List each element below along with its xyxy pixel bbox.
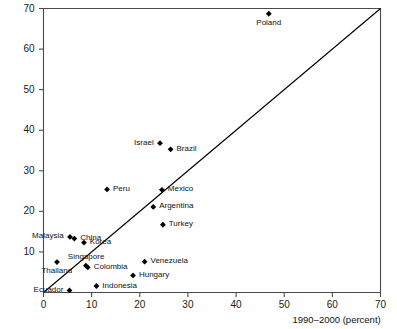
x-axis-tick-label: 10	[72, 300, 112, 310]
x-axis-tick-label: 20	[120, 300, 160, 310]
data-point-marker	[160, 222, 166, 228]
data-point-label: Brazil	[176, 145, 196, 153]
data-point-marker	[104, 187, 110, 193]
y-axis-tick-label: 50	[0, 85, 35, 95]
data-point-label: Singapore	[68, 253, 104, 261]
data-point-marker	[157, 140, 163, 146]
data-point-marker	[266, 11, 272, 17]
y-axis-tick-label: 30	[0, 166, 35, 176]
x-axis-tick-label: 60	[312, 300, 352, 310]
data-point-label: Hungary	[139, 271, 169, 279]
data-point-label: Poland	[256, 19, 281, 27]
y-axis-tick-label: 70	[0, 4, 35, 14]
data-point-label: Indonesia	[102, 282, 137, 290]
data-point-marker	[130, 273, 136, 279]
data-point-label: Venezuela	[151, 257, 188, 265]
data-point-marker	[142, 259, 148, 265]
data-point-marker	[168, 146, 174, 152]
45-degree-line	[44, 9, 381, 293]
x-axis-tick-label: 70	[361, 300, 397, 310]
data-point-label: Peru	[113, 185, 130, 193]
data-point-label: Malaysia	[32, 232, 64, 240]
x-axis-title: 1990–2000 (percent)	[293, 315, 381, 325]
y-axis-tick-label: 10	[0, 247, 35, 257]
x-axis-tick-label: 40	[216, 300, 256, 310]
y-axis-tick-label: 20	[0, 206, 35, 216]
data-point-label: Korea	[90, 238, 111, 246]
data-point-label: Argentina	[159, 202, 193, 210]
x-axis-tick-label: 30	[168, 300, 208, 310]
data-point-marker	[159, 187, 165, 193]
data-point-marker	[94, 283, 100, 289]
plot-canvas	[0, 0, 397, 329]
y-axis-tick-label: 40	[0, 125, 35, 135]
data-point-label: Israel	[134, 139, 154, 147]
data-point-label: Turkey	[169, 220, 193, 228]
data-point-label: Ecuador	[34, 286, 64, 294]
data-point-label: Mexico	[168, 185, 193, 193]
data-point-label: Thailand	[41, 267, 72, 275]
scatter-plot-figure: 10203040506070010203040506070PolandIsrae…	[0, 0, 397, 329]
data-point-marker	[54, 259, 60, 265]
x-axis-tick-label: 0	[24, 300, 64, 310]
x-axis-tick-label: 50	[264, 300, 304, 310]
data-point-label: Colombia	[94, 263, 128, 271]
data-point-marker	[150, 204, 156, 210]
y-axis-tick-label: 60	[0, 44, 35, 54]
